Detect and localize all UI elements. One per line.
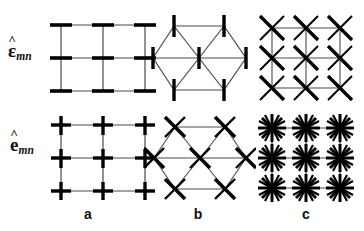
caption-b: b	[186, 206, 210, 222]
row-label-epsilon-hat-mn: ^εmn	[8, 40, 32, 62]
hat-accent-icon: ^	[10, 127, 18, 140]
panel-a-top-square-lattice-horizontal-bar	[48, 16, 158, 100]
row-label-epsilon-symbol: ^ε	[8, 40, 16, 62]
panel-a-bottom-square-lattice-plus-cross	[48, 116, 158, 200]
caption-c: c	[294, 206, 318, 222]
node-markers-star	[258, 114, 354, 202]
row-label-e-symbol: ^e	[10, 134, 18, 156]
row-label-e-hat-mn: ^emn	[10, 134, 34, 156]
panel-c-bottom-square-diagonal-lattice-star	[252, 114, 360, 202]
node-markers-diagonal-cross	[260, 16, 352, 100]
panel-b-bottom-hexagonal-lattice-diagonal-cross	[144, 112, 256, 204]
figure-root: ^εmn ^emn	[0, 0, 364, 231]
row-label-e-subscript: mn	[18, 144, 34, 156]
row-label-epsilon-subscript: mn	[16, 50, 32, 62]
caption-a: a	[76, 206, 100, 222]
node-markers-plus-cross	[51, 116, 155, 200]
hat-accent-icon: ^	[8, 33, 16, 46]
panel-b-top-hexagonal-lattice-vertical-bar	[146, 14, 254, 102]
panel-c-top-square-diagonal-lattice-diagonal-cross	[252, 14, 360, 102]
